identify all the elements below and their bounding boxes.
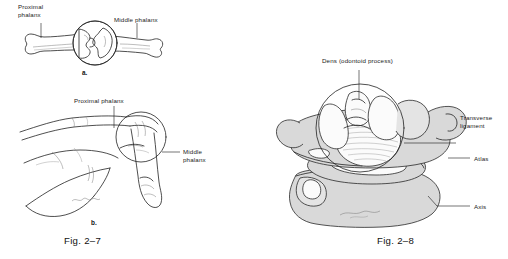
atlas-axis-artwork (0, 0, 508, 259)
label-dens-odontoid-process: Dens (odontoid process) (322, 57, 393, 65)
label-atlas: Atlas (474, 155, 489, 163)
figure-caption-2-8: Fig. 2–8 (377, 235, 414, 246)
dens-odontoid-process (345, 91, 370, 125)
label-transverse-ligament: Transverse ligament (460, 114, 492, 129)
label-axis: Axis (474, 203, 486, 211)
illustration-page: Proximal phalanx Middle phalanx a. (0, 0, 508, 259)
